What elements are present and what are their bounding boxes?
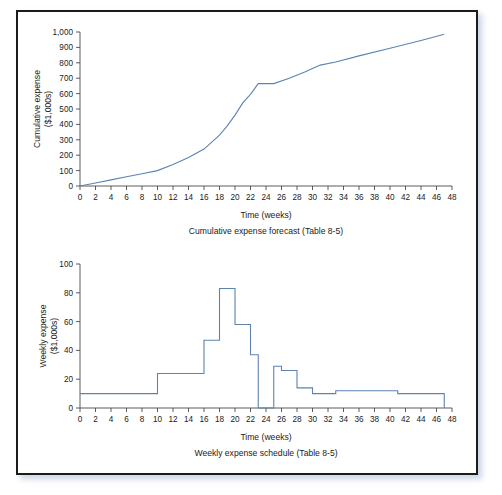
cumulative-expense-chart: 01002003004005006007008009001,0000246810… [18,12,476,250]
x-tick-label: 12 [168,415,178,424]
y-axis-title-line1: Weekly expense [38,304,48,367]
y-axis-title-line1: Cumulative expense [32,70,42,148]
y-tick-label: 700 [59,74,73,83]
x-tick-label: 10 [153,415,163,424]
x-tick-label: 4 [109,193,114,202]
y-tick-label: 800 [59,59,73,68]
y-tick-label: 100 [59,167,73,176]
x-tick-label: 14 [184,193,194,202]
x-tick-label: 32 [323,415,333,424]
weekly-expense-plot: 0204060801000246810121416182022242628303… [18,250,478,472]
y-axis-title-line2: ($1,000s) [43,91,53,127]
y-tick-label: 60 [64,318,74,327]
x-tick-label: 2 [93,193,98,202]
x-tick-label: 12 [168,193,178,202]
cumulative-expense-plot: 01002003004005006007008009001,0000246810… [18,12,478,250]
data-series-line [80,288,444,408]
x-tick-label: 32 [323,193,333,202]
chart-caption: Weekly expense schedule (Table 8-5) [194,448,337,458]
x-tick-label: 22 [246,415,256,424]
x-tick-label: 34 [339,415,349,424]
x-tick-label: 24 [261,193,271,202]
x-tick-label: 36 [354,193,364,202]
y-axis-title-line2: ($1,000s) [49,318,59,354]
x-tick-label: 26 [277,415,287,424]
x-tick-label: 30 [308,193,318,202]
y-tick-label: 500 [59,105,73,114]
x-tick-label: 42 [401,193,411,202]
x-tick-label: 26 [277,193,287,202]
x-tick-label: 20 [230,415,240,424]
x-tick-label: 34 [339,193,349,202]
chart-caption: Cumulative expense forecast (Table 8-5) [189,226,343,236]
y-tick-label: 900 [59,43,73,52]
data-series-line [80,34,444,186]
y-tick-label: 40 [64,346,74,355]
x-tick-label: 36 [354,415,364,424]
y-tick-label: 0 [68,404,73,413]
x-tick-label: 10 [153,193,163,202]
x-tick-label: 38 [370,193,380,202]
x-tick-label: 40 [385,415,395,424]
x-tick-label: 38 [370,415,380,424]
y-tick-label: 1,000 [53,28,74,37]
y-tick-label: 600 [59,90,73,99]
x-tick-label: 46 [432,193,442,202]
x-tick-label: 18 [215,193,225,202]
x-tick-label: 18 [215,415,225,424]
x-tick-label: 16 [199,415,209,424]
weekly-expense-chart: 0204060801000246810121416182022242628303… [18,250,476,472]
x-tick-label: 48 [447,193,457,202]
x-tick-label: 14 [184,415,194,424]
x-tick-label: 6 [124,193,129,202]
x-axis-title: Time (weeks) [240,210,291,220]
x-tick-label: 24 [261,415,271,424]
y-tick-label: 20 [64,375,74,384]
x-tick-label: 8 [140,193,145,202]
y-tick-label: 100 [59,260,73,269]
y-tick-label: 300 [59,136,73,145]
x-tick-label: 40 [385,193,395,202]
x-tick-label: 4 [109,415,114,424]
figure-frame: 01002003004005006007008009001,0000246810… [16,10,478,475]
x-tick-label: 28 [292,415,302,424]
x-axis-title: Time (weeks) [240,432,291,442]
x-tick-label: 22 [246,193,256,202]
x-tick-label: 48 [447,415,457,424]
x-tick-label: 6 [124,415,129,424]
x-tick-label: 28 [292,193,302,202]
y-tick-label: 0 [68,182,73,191]
y-tick-label: 400 [59,120,73,129]
x-tick-label: 44 [416,415,426,424]
x-tick-label: 0 [78,415,83,424]
x-tick-label: 46 [432,415,442,424]
x-tick-label: 20 [230,193,240,202]
x-tick-label: 0 [78,193,83,202]
x-tick-label: 2 [93,415,98,424]
x-tick-label: 30 [308,415,318,424]
x-tick-label: 42 [401,415,411,424]
y-tick-label: 200 [59,151,73,160]
x-tick-label: 16 [199,193,209,202]
x-tick-label: 44 [416,193,426,202]
x-tick-label: 8 [140,415,145,424]
y-tick-label: 80 [64,289,74,298]
